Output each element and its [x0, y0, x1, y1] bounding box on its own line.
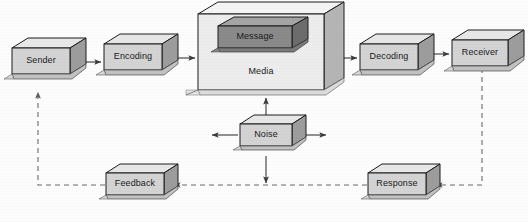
edge-receiver-to-response-path — [436, 68, 482, 185]
node-message[interactable] — [211, 17, 308, 52]
node-sender[interactable] — [4, 38, 86, 79]
diagram-canvas: Sender Encoding Media Message Decoding R… — [0, 0, 528, 222]
node-feedback[interactable] — [99, 164, 178, 199]
node-response[interactable] — [361, 164, 440, 199]
node-receiver[interactable] — [444, 30, 524, 71]
node-encoding[interactable] — [96, 34, 178, 75]
node-noise[interactable] — [233, 115, 306, 150]
communication-process-diagram — [0, 0, 528, 222]
edge-feedback-to-sender-path — [38, 92, 105, 185]
node-decoding[interactable] — [352, 34, 434, 75]
